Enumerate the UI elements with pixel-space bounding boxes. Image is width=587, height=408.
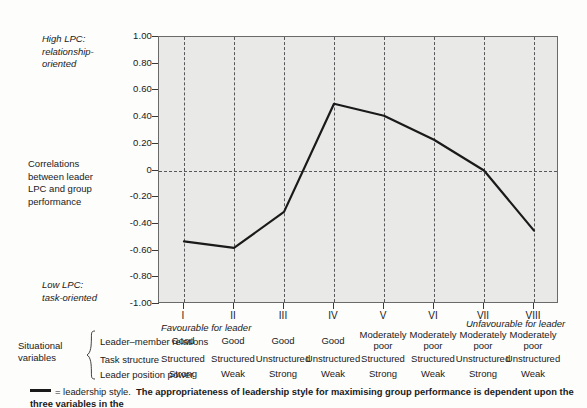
y-tick-label: -0.20 (104, 191, 152, 201)
y-tick-mark (152, 303, 159, 304)
situational-cell: Weak (502, 369, 564, 380)
y-tick-label: -0.60 (104, 245, 152, 255)
x-tick-mark (283, 303, 284, 309)
plot-area (158, 36, 558, 303)
curly-brace-icon (86, 330, 96, 380)
cell-line-1: Moderately (510, 329, 557, 340)
x-tick-mark (433, 303, 434, 309)
y-tick-label: 0.40 (104, 111, 152, 121)
situational-variables-table: Situational variables Leader–member rela… (0, 330, 587, 382)
cell-line-1: Moderately (360, 329, 407, 340)
y-tick-label: -1.00 (104, 298, 152, 308)
x-tick-mark (483, 303, 484, 309)
footnote-legend-label: = leadership style. (55, 386, 131, 397)
figure-footnote: = leadership style. The appropriateness … (30, 386, 581, 408)
situational-title-line-2: variables (18, 352, 88, 364)
y-tick-label: 0.60 (104, 84, 152, 94)
situational-cell: Unstructured (502, 354, 564, 365)
situational-variables-title: Situational variables (18, 340, 88, 363)
leadership-style-series (159, 37, 559, 304)
x-tick-mark (383, 303, 384, 309)
x-tick-mark (183, 303, 184, 309)
cell-line-2: poor (502, 341, 564, 352)
x-tick-mark (533, 303, 534, 309)
line-legend-swatch-icon (30, 389, 51, 392)
x-tick-mark (333, 303, 334, 309)
x-tick-mark (233, 303, 234, 309)
situational-row-label-2: Task structure (100, 354, 159, 365)
fiedler-contingency-chart: High LPC: relationship- oriented Correla… (0, 0, 587, 408)
situational-cell: Moderatelypoor (502, 330, 564, 351)
y-tick-label: 0 (104, 165, 152, 175)
leadership-style-line (184, 104, 534, 248)
y-tick-label: 0.80 (104, 58, 152, 68)
situational-title-line-1: Situational (18, 340, 88, 352)
y-tick-label: -0.40 (104, 218, 152, 228)
y-tick-label: 1.00 (104, 31, 152, 41)
cell-line-1: Moderately (410, 329, 457, 340)
y-tick-label: 0.20 (104, 138, 152, 148)
x-axis-note-unfavourable: Unfavourable for leader (466, 318, 565, 329)
y-tick-label: -0.80 (104, 271, 152, 281)
cell-line-1: Moderately (460, 329, 507, 340)
